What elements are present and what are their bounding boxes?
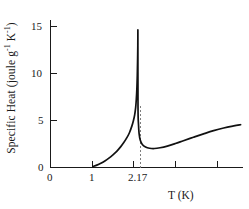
axes-group	[51, 20, 244, 168]
x-axis-label: T (K)	[168, 189, 194, 201]
y-axis-label-prefix: Specific Heat (joule g	[5, 50, 17, 153]
x-tick-label-0: 0	[47, 172, 53, 183]
y-axis-label-container: Specific Heat (joule g-1 K-1)	[0, 0, 22, 175]
specific-heat-curve	[93, 30, 241, 167]
lambda-point-label: 2.17	[128, 172, 147, 183]
x-tick-marks	[51, 161, 218, 168]
y-axis-label-middle: K	[5, 32, 17, 43]
chart-figure: 0 5 10 15 0 1 2.17 T (K) Specific Heat (…	[0, 0, 249, 209]
y-axis-label: Specific Heat (joule g-1 K-1)	[5, 22, 17, 154]
y-tick-label-15: 15	[31, 21, 42, 32]
y-tick-marks	[51, 27, 58, 168]
x-tick-label-1: 1	[89, 172, 95, 183]
y-tick-label-10: 10	[31, 68, 42, 79]
y-axis-label-suffix: )	[5, 22, 17, 26]
y-tick-label-0: 0	[38, 162, 44, 173]
y-axis-label-exp1: -1	[3, 44, 12, 51]
y-tick-label-5: 5	[38, 115, 44, 126]
y-axis-label-exp2: -1	[3, 26, 12, 33]
